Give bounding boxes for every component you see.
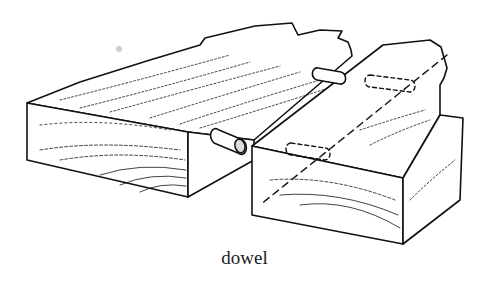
stray-dot xyxy=(116,46,122,52)
dowel-joint-illustration xyxy=(0,0,489,287)
caption: dowel xyxy=(0,247,489,269)
